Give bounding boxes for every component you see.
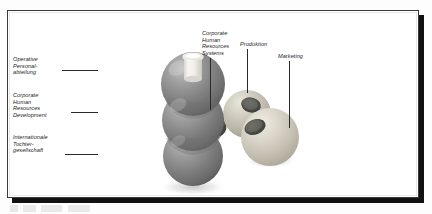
label-line: Systems xyxy=(202,50,229,57)
leader-line-produktion xyxy=(247,49,248,93)
label-line: Operative xyxy=(13,56,38,63)
leader-line-operative xyxy=(62,70,98,71)
label-produktion: Produktion xyxy=(240,41,267,48)
label-line: Tochter- xyxy=(13,141,48,148)
figure-stage: Operative Personal- abteilung Corporate … xyxy=(8,11,418,197)
label-line: Resources xyxy=(202,43,229,50)
label-line: Internationale xyxy=(13,134,48,141)
label-corporate-hr-systems: Corporate Human Resources Systems xyxy=(202,30,229,56)
label-corporate-hr-development: Corporate Human Resources Development xyxy=(13,92,47,118)
page-caption-remnant xyxy=(10,205,190,212)
label-line: gesellschaft xyxy=(13,147,48,154)
label-line: Marketing xyxy=(278,53,303,60)
leader-line-hr-systems xyxy=(210,58,211,110)
label-line: Corporate xyxy=(202,30,229,37)
label-line: Personal- xyxy=(13,63,38,70)
label-operative-personalabteilung: Operative Personal- abteilung xyxy=(13,56,38,76)
label-line: Corporate xyxy=(13,92,47,99)
label-line: Development xyxy=(13,112,47,119)
label-line: Human xyxy=(13,99,47,106)
leader-line-tochtergesellschaft xyxy=(65,154,98,155)
figure-root: Operative Personal- abteilung Corporate … xyxy=(0,0,432,214)
label-line: abteilung xyxy=(13,69,38,76)
leader-line-hr-development xyxy=(71,112,98,113)
figure-frame: Operative Personal- abteilung Corporate … xyxy=(7,10,419,198)
label-line: Produktion xyxy=(240,41,267,48)
label-line: Resources xyxy=(13,105,47,112)
label-marketing: Marketing xyxy=(278,53,303,60)
label-line: Human xyxy=(202,37,229,44)
label-internationale-tochtergesellschaft: Internationale Tochter- gesellschaft xyxy=(13,134,48,154)
leader-line-marketing xyxy=(289,61,290,128)
